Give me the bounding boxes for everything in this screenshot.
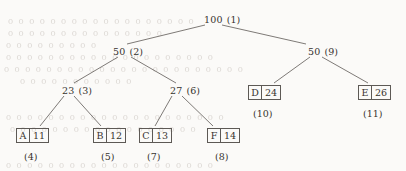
leaf-node-B: B12	[93, 128, 126, 143]
leaf-index-A: (4)	[24, 151, 37, 162]
internal-node-1: 100(1)	[204, 14, 240, 25]
tree-edge-n3-l4	[40, 96, 64, 126]
leaf-index-D: (10)	[253, 108, 273, 119]
node-index: (6)	[187, 85, 200, 96]
tree-edge-n1-n9	[222, 25, 306, 44]
tree-edge-n2-n6	[131, 57, 176, 83]
node-index: (1)	[227, 14, 240, 25]
leaf-symbol: B	[94, 129, 107, 142]
leaf-index-F: (8)	[215, 151, 228, 162]
leaf-weight: 24	[262, 86, 280, 99]
tree-edge-n9-l10	[274, 57, 310, 83]
tree-edge-n6-l8	[182, 96, 213, 126]
leaf-node-F: F14	[207, 128, 240, 143]
tree-edge-n2-n3	[74, 57, 118, 83]
leaf-symbol: A	[17, 129, 30, 142]
leaf-weight: 26	[372, 86, 390, 99]
huffman-tree-figure: o o o o o o o o o o o o o o o o o oo o o…	[0, 0, 406, 171]
tree-edge-n1-n2	[127, 25, 205, 44]
leaf-symbol: C	[140, 129, 153, 142]
node-weight: 50	[113, 46, 126, 57]
leaf-node-E: E26	[358, 85, 391, 100]
node-index: (3)	[79, 85, 92, 96]
tree-edges	[0, 0, 406, 171]
tree-edge-n3-l5	[74, 96, 101, 126]
leaf-weight: 11	[30, 129, 48, 142]
node-weight: 27	[170, 85, 183, 96]
internal-node-9: 50(9)	[308, 46, 338, 57]
leaf-weight: 13	[153, 129, 171, 142]
leaf-symbol: D	[249, 86, 262, 99]
internal-node-2: 50(2)	[113, 46, 143, 57]
tree-edge-n6-l7	[155, 96, 172, 126]
leaf-index-B: (5)	[101, 151, 114, 162]
internal-node-3: 23(3)	[62, 85, 92, 96]
leaf-weight: 12	[107, 129, 125, 142]
leaf-node-C: C13	[139, 128, 172, 143]
internal-node-6: 27(6)	[170, 85, 200, 96]
leaf-index-E: (11)	[363, 108, 383, 119]
node-weight: 23	[62, 85, 75, 96]
node-weight: 50	[308, 46, 321, 57]
leaf-weight: 14	[221, 129, 239, 142]
node-index: (2)	[130, 46, 143, 57]
node-weight: 100	[204, 14, 223, 25]
leaf-symbol: E	[359, 86, 372, 99]
leaf-symbol: F	[208, 129, 221, 142]
leaf-index-C: (7)	[147, 151, 160, 162]
tree-edge-n9-l11	[322, 57, 368, 83]
leaf-node-A: A11	[16, 128, 49, 143]
leaf-node-D: D24	[248, 85, 281, 100]
node-index: (9)	[325, 46, 338, 57]
